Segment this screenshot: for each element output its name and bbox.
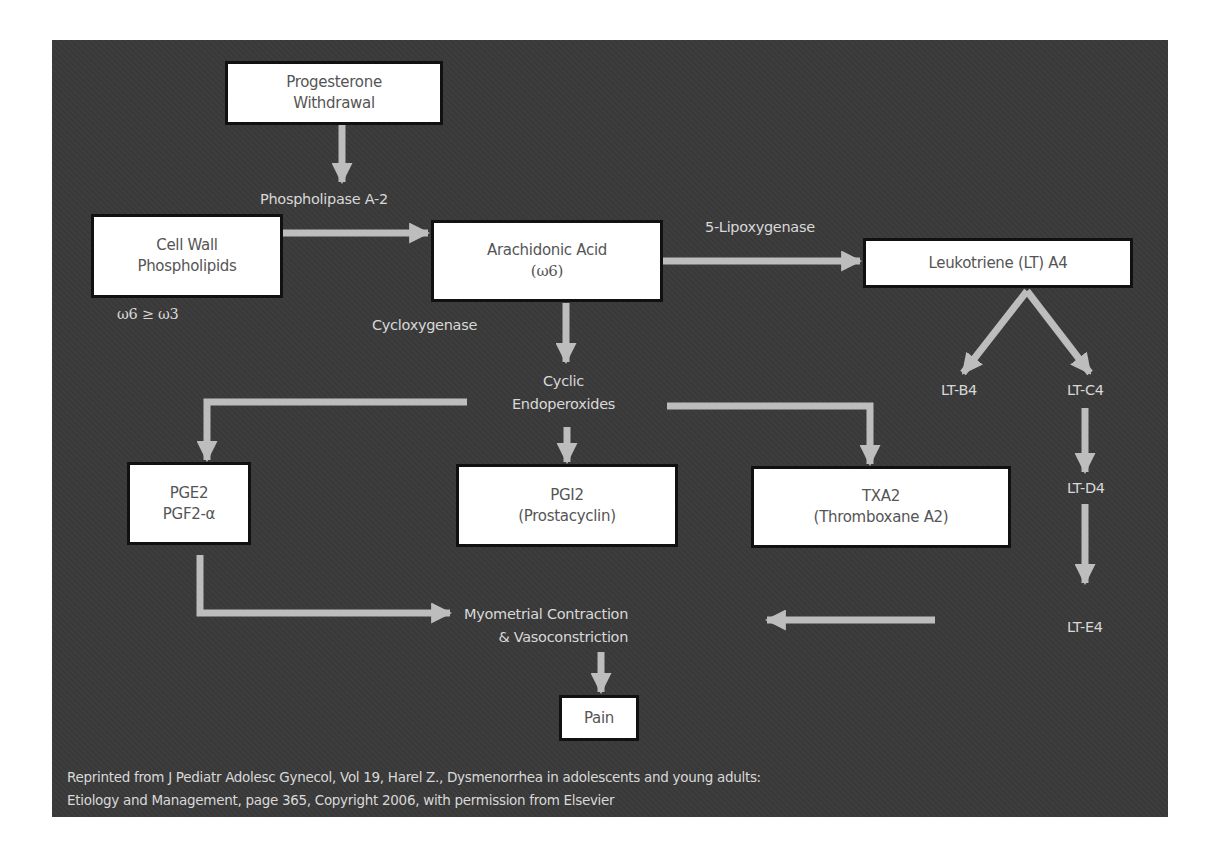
arrow-cyclic-to-pge2: [207, 402, 467, 460]
node-label: (ω6): [531, 261, 563, 282]
node-progesterone-withdrawal: Progesterone Withdrawal: [225, 61, 443, 125]
arrow-cyclic-to-txa2: [667, 406, 870, 464]
node-label: Withdrawal: [293, 93, 375, 114]
label-lt-b4: LT-B4: [941, 380, 977, 401]
node-label: Phospholipids: [137, 256, 236, 277]
node-arachidonic-acid: Arachidonic Acid (ω6): [431, 220, 663, 302]
label-cyclic-endoperoxides: Cyclic Endoperoxides: [512, 370, 615, 416]
node-label: Cell Wall: [156, 235, 218, 256]
citation-line: Reprinted from J Pediatr Adolesc Gynecol…: [67, 766, 761, 789]
label-lt-e4: LT-E4: [1067, 617, 1103, 638]
node-txa2-thromboxane: TXA2 (Thromboxane A2): [751, 466, 1011, 548]
node-cell-wall-phospholipids: Cell Wall Phospholipids: [91, 214, 283, 298]
label-line: Myometrial Contraction: [464, 603, 628, 626]
arrow-lt-to-c4: [1027, 291, 1090, 373]
node-label: (Thromboxane A2): [814, 507, 949, 528]
node-pgi2-prostacyclin: PGI2 (Prostacyclin): [456, 464, 678, 547]
label-myometrial-contraction: Myometrial Contraction & Vasoconstrictio…: [464, 603, 628, 649]
node-label: PGF2-α: [163, 504, 215, 525]
label-lipoxygenase: 5-Lipoxygenase: [705, 217, 815, 238]
node-label: Pain: [584, 708, 614, 729]
label-line: Cyclic: [512, 370, 615, 393]
arrow-pge2-to-myometrial: [200, 555, 450, 613]
label-lt-c4: LT-C4: [1067, 380, 1104, 401]
label-phospholipase: Phospholipase A-2: [260, 189, 388, 210]
node-leukotriene-a4: Leukotriene (LT) A4: [863, 238, 1133, 288]
label-line: & Vasoconstriction: [464, 626, 628, 649]
citation-line: Etiology and Management, page 365, Copyr…: [67, 789, 761, 812]
citation: Reprinted from J Pediatr Adolesc Gynecol…: [67, 766, 761, 812]
label-line: Endoperoxides: [512, 393, 615, 416]
label-cyclooxygenase: Cycloxygenase: [372, 315, 477, 336]
label-omega-ratio: ω6 ≥ ω3: [117, 304, 178, 325]
label-lt-d4: LT-D4: [1067, 478, 1105, 499]
arrow-lt-to-b4: [963, 291, 1027, 373]
node-label: Arachidonic Acid: [487, 240, 607, 261]
node-label: Leukotriene (LT) A4: [928, 253, 1067, 274]
node-label: TXA2: [862, 486, 900, 507]
node-label: (Prostacyclin): [518, 506, 615, 527]
node-pge2-pgf2a: PGE2 PGF2-α: [127, 462, 251, 545]
node-label: PGE2: [170, 483, 209, 504]
node-label: Progesterone: [286, 72, 382, 93]
node-pain: Pain: [559, 695, 639, 741]
node-label: PGI2: [550, 485, 583, 506]
